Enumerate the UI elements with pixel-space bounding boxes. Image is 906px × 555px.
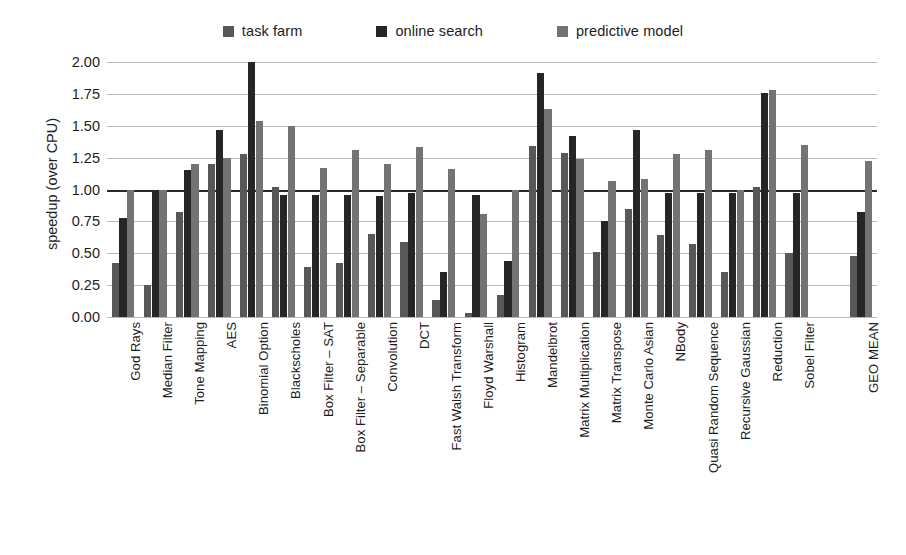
legend-predictive-model: predictive model <box>557 23 683 39</box>
bar <box>465 313 472 317</box>
bar <box>312 195 319 317</box>
bar <box>184 170 191 317</box>
bar <box>256 121 263 317</box>
bar-group <box>593 62 616 317</box>
bar <box>376 196 383 317</box>
bars-layer <box>107 62 877 317</box>
x-tick-label: Quasi Random Sequence <box>706 322 721 473</box>
legend-label: task farm <box>242 23 303 39</box>
bar <box>408 193 415 317</box>
bar <box>432 300 439 317</box>
bar-group <box>657 62 680 317</box>
bar <box>729 193 736 317</box>
bar <box>440 272 447 317</box>
x-tick-label: Mandelbrot <box>545 322 560 388</box>
bar <box>689 244 696 317</box>
bar-group <box>625 62 648 317</box>
bar <box>737 190 744 318</box>
y-tick-label: 2.00 <box>72 54 100 70</box>
bar <box>593 252 600 317</box>
legend-swatch-icon <box>557 26 568 37</box>
bar <box>112 263 119 317</box>
legend-online-search: online search <box>376 23 483 39</box>
bar <box>569 136 576 317</box>
x-tick-label: Tone Mapping <box>192 322 207 405</box>
y-tick-label: 0.00 <box>72 309 100 325</box>
bar <box>320 168 327 317</box>
bar <box>368 234 375 317</box>
x-tick-label: Matrix Transpose <box>609 322 624 423</box>
bar <box>697 193 704 317</box>
bar <box>769 90 776 317</box>
bar <box>857 212 864 317</box>
bar <box>280 195 287 317</box>
legend-swatch-icon <box>223 26 234 37</box>
bar <box>561 153 568 317</box>
bar <box>344 195 351 317</box>
x-tick-label: Convolution <box>385 322 400 392</box>
bar <box>721 272 728 317</box>
bar-group <box>529 62 552 317</box>
bar <box>657 235 664 317</box>
y-axis-tick-labels: 2.001.751.501.251.000.750.500.250.00 <box>52 62 100 317</box>
bar <box>352 150 359 317</box>
bar <box>400 242 407 317</box>
x-tick-label: God Rays <box>128 322 143 381</box>
bar-group <box>753 62 776 317</box>
bar-group <box>176 62 199 317</box>
bar <box>480 214 487 317</box>
bar <box>216 130 223 317</box>
y-tick-label: 0.25 <box>72 277 100 293</box>
x-tick-label: Monte Carlo Asian <box>641 322 656 430</box>
legend-label: predictive model <box>576 23 683 39</box>
bar <box>673 154 680 317</box>
bar <box>544 109 551 317</box>
x-tick-label: DCT <box>417 322 432 349</box>
gridline <box>107 317 877 318</box>
x-axis-tick-labels: God RaysMedian FilterTone MappingAESBino… <box>107 320 877 520</box>
x-tick-label: Box Filter – SAT <box>321 322 336 417</box>
bar-group <box>850 62 873 317</box>
bar <box>152 190 159 318</box>
bar-group <box>561 62 584 317</box>
bar-group <box>272 62 295 317</box>
bar <box>159 190 166 318</box>
x-tick-label: Sobel Filter <box>802 322 817 389</box>
chart-root: task farmonline searchpredictive model s… <box>0 0 906 555</box>
bar <box>625 209 632 317</box>
bar <box>512 190 519 318</box>
bar <box>665 193 672 317</box>
x-tick-label: Floyd Warshall <box>481 322 496 409</box>
bar <box>705 150 712 317</box>
bar <box>753 187 760 317</box>
bar-group <box>432 62 455 317</box>
bar <box>529 146 536 317</box>
chart-legend: task farmonline searchpredictive model <box>0 18 906 44</box>
bar <box>191 164 198 317</box>
bar-group <box>144 62 167 317</box>
bar-group <box>304 62 327 317</box>
bar <box>472 195 479 317</box>
bar <box>223 158 230 317</box>
bar <box>272 187 279 317</box>
bar-group <box>497 62 520 317</box>
y-tick-label: 1.00 <box>72 182 100 198</box>
plot-area <box>107 62 877 317</box>
x-tick-label: GEO MEAN <box>866 322 881 393</box>
bar <box>601 221 608 317</box>
legend-task-farm: task farm <box>223 23 303 39</box>
legend-swatch-icon <box>376 26 387 37</box>
bar-group <box>208 62 231 317</box>
x-tick-label: Reduction <box>770 322 785 381</box>
bar-group <box>785 62 808 317</box>
bar <box>633 130 640 317</box>
x-tick-label: Blackscholes <box>288 322 303 399</box>
y-tick-label: 1.25 <box>72 150 100 166</box>
bar <box>127 190 134 318</box>
bar <box>384 164 391 317</box>
bar-group <box>368 62 391 317</box>
bar <box>240 154 247 317</box>
y-tick-label: 0.75 <box>72 213 100 229</box>
x-tick-label: Binomial Option <box>256 322 271 415</box>
x-tick-label: Box Filter – Separable <box>353 322 368 452</box>
